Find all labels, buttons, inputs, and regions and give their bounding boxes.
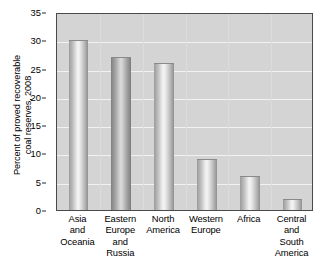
y-axis-tick-mark (42, 154, 46, 155)
bar (240, 176, 260, 210)
y-axis-tick-label: 30 (1, 37, 41, 46)
y-axis-tick-mark (42, 211, 46, 212)
y-axis-tick-mark (42, 97, 46, 98)
y-axis-tick-mark (42, 182, 46, 183)
x-axis-tick-label: CentralandSouthAmerica (262, 213, 321, 259)
plot-area (56, 13, 313, 211)
y-axis-tick-labels: 05101520253035 (0, 0, 48, 278)
y-axis-tick-label: 25 (1, 65, 41, 74)
bars-layer (57, 14, 312, 210)
bar (154, 63, 174, 210)
y-axis-tick-label: 35 (1, 8, 41, 17)
y-axis-tick-label: 10 (1, 150, 41, 159)
x-axis-tick-label-line: Russia (91, 247, 150, 258)
x-axis-tick-label-line: Europe (177, 224, 236, 235)
bar (111, 57, 131, 210)
x-axis-tick-label-line: Central (262, 213, 321, 224)
bar-chart-figure: Percent of proved recoverable coal reser… (0, 0, 321, 278)
bar (69, 40, 89, 210)
y-axis-tick-mark (42, 41, 46, 42)
y-axis-tick-label: 15 (1, 121, 41, 130)
bar (283, 199, 303, 210)
bar (197, 159, 217, 210)
y-axis-tick-mark (42, 69, 46, 70)
x-axis-tick-label-line: America (262, 247, 321, 258)
x-axis-tick-label-line: South (262, 236, 321, 247)
y-axis-tick-mark (42, 13, 46, 14)
y-axis-tick-mark (42, 126, 46, 127)
x-axis-tick-label-line: and (262, 224, 321, 235)
x-axis-tick-label-line: and (91, 236, 150, 247)
x-axis-tick-labels: AsiaandOceaniaEasternEuropeandRussiaNort… (56, 213, 313, 278)
y-axis-tick-label: 20 (1, 93, 41, 102)
y-axis-tick-label: 0 (1, 206, 41, 215)
y-axis-tick-label: 5 (1, 178, 41, 187)
